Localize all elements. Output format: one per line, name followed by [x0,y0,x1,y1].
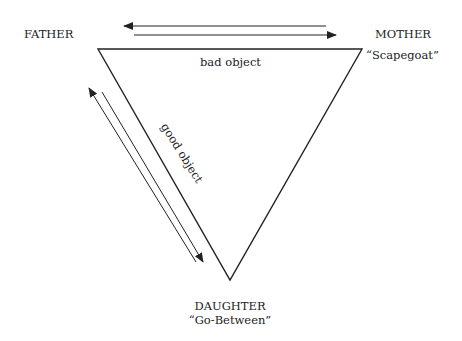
arrow-to-father-diagonal [89,88,196,262]
daughter-role: “Go-Between” [180,313,280,327]
mother-label: MOTHER [375,27,431,41]
daughter-label: DAUGHTER [180,299,280,313]
bad-object-label: bad object [200,55,261,69]
triangulation-diagram: FATHER MOTHER “Scapegoat” bad object goo… [0,0,462,341]
triangle [98,49,362,280]
mother-role: “Scapegoat” [366,48,439,62]
father-label: FATHER [24,27,73,41]
